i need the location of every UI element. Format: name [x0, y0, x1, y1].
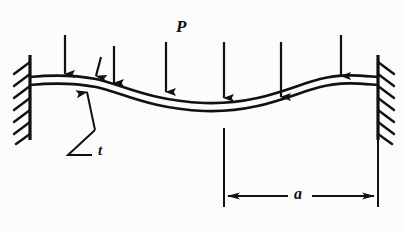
- engineering-figure: P t a: [0, 0, 406, 231]
- load-label-p: P: [176, 18, 186, 35]
- beam-top-edge: [30, 75, 378, 103]
- thickness-label-t: t: [98, 143, 102, 158]
- support-right-hatching: [378, 62, 394, 144]
- beam-bottom-edge: [30, 83, 378, 111]
- fixed-support-left: [14, 55, 30, 144]
- fixed-support-right: [378, 55, 394, 144]
- length-label-a: a: [294, 186, 302, 202]
- load-arrow-slanted: [96, 57, 101, 76]
- support-left-hatching: [14, 62, 30, 144]
- buckled-beam: [30, 75, 378, 111]
- thickness-leader-arrow: [87, 92, 95, 130]
- diagram-canvas: [0, 0, 406, 231]
- thickness-leader-line: [68, 92, 95, 155]
- thickness-leader-path: [68, 130, 95, 155]
